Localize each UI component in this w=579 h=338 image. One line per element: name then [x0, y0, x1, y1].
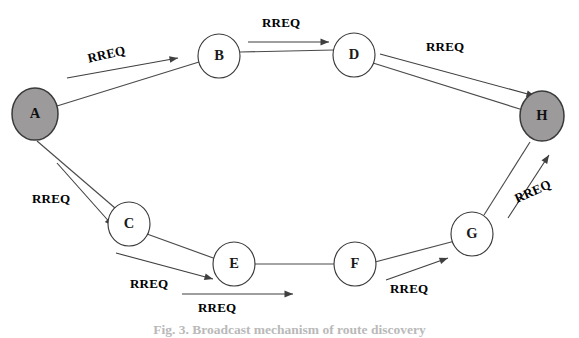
- node-g[interactable]: G: [451, 212, 493, 256]
- node-e-label: E: [229, 255, 239, 271]
- rreq-d-h-label: RREQ: [426, 39, 464, 55]
- rreq-b-d-label: RREQ: [262, 15, 300, 31]
- rreq-a-c-label: RREQ: [32, 191, 70, 207]
- node-f[interactable]: F: [334, 242, 376, 286]
- rreq-f-g-arrow-shaft: [386, 258, 448, 280]
- rreq-d-h-arrow: [380, 54, 535, 97]
- nodes-group: ABDHCEFG: [12, 33, 564, 286]
- node-e[interactable]: E: [213, 242, 255, 286]
- node-b-label: B: [214, 47, 224, 63]
- node-h-label: H: [536, 107, 548, 123]
- node-f-label: F: [351, 255, 360, 271]
- rreq-b-d-arrow-head: [321, 39, 330, 46]
- rreq-e-f-label: RREQ: [198, 300, 236, 316]
- edge-a-b: [57, 62, 199, 106]
- rreq-f-g-arrow-head: [439, 258, 448, 264]
- node-d-label: D: [349, 46, 359, 62]
- node-b[interactable]: B: [198, 34, 240, 78]
- rreq-a-b-arrow-head: [169, 56, 178, 63]
- node-c[interactable]: C: [108, 202, 150, 246]
- node-h[interactable]: H: [520, 91, 564, 141]
- node-d[interactable]: D: [333, 33, 375, 77]
- message-arrows-group: [57, 39, 549, 298]
- rreq-e-f-arrow: [182, 291, 293, 298]
- node-a-label: A: [30, 105, 41, 121]
- node-a[interactable]: A: [12, 88, 58, 140]
- rreq-a-b-arrow: [67, 56, 178, 78]
- rreq-g-h-arrow-head: [542, 155, 549, 164]
- rreq-e-f-arrow-head: [285, 291, 294, 298]
- rreq-a-b-arrow-shaft: [67, 58, 178, 78]
- rreq-b-d-arrow: [248, 39, 329, 46]
- figure-container: ABDHCEFG RREQRREQRREQRREQRREQRREQRREQRRE…: [0, 0, 579, 338]
- edge-c-e: [147, 234, 216, 259]
- rreq-f-g-label: RREQ: [390, 281, 428, 297]
- rreq-c-e-label: RREQ: [130, 276, 168, 292]
- edge-b-d: [240, 50, 334, 52]
- rreq-f-g-arrow: [386, 258, 448, 280]
- node-g-label: G: [466, 225, 477, 241]
- figure-caption: Fig. 3. Broadcast mechanism of route dis…: [0, 322, 579, 338]
- rreq-c-e-arrow-head: [204, 274, 213, 281]
- node-c-label: C: [124, 215, 134, 231]
